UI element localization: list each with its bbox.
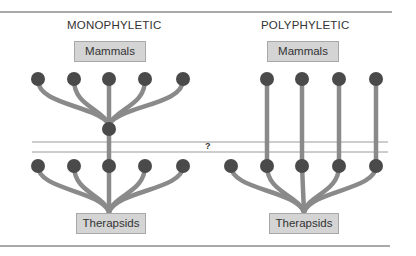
polyphyletic-title: POLYPHYLETIC bbox=[261, 19, 349, 31]
poly-mammals-box: Mammals bbox=[267, 41, 339, 62]
mono-branches bbox=[38, 80, 183, 212]
diagram-graphics bbox=[0, 0, 416, 256]
poly-branches bbox=[231, 80, 376, 212]
mono-therapsids-box: Therapsids bbox=[76, 213, 146, 234]
question-mark: ? bbox=[205, 141, 211, 151]
mono-mammals-box: Mammals bbox=[74, 41, 146, 62]
phylogeny-diagram: MONOPHYLETIC POLYPHYLETIC Mammals Mammal… bbox=[0, 0, 416, 256]
poly-therapsids-box: Therapsids bbox=[269, 213, 339, 234]
monophyletic-title: MONOPHYLETIC bbox=[67, 19, 161, 31]
